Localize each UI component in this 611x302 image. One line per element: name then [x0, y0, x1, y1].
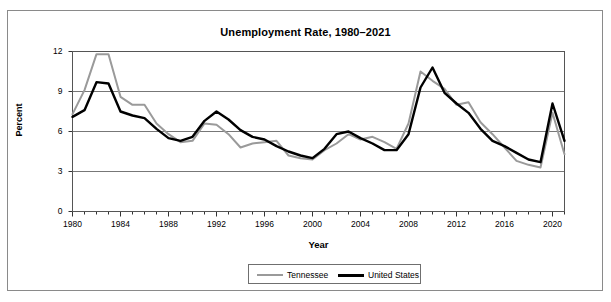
x-tick-label: 1996	[247, 219, 283, 229]
legend-item-tennessee: Tennessee	[257, 269, 328, 281]
x-tick-label: 1988	[151, 219, 187, 229]
plot-area	[0, 0, 611, 302]
legend-label-tennessee: Tennessee	[287, 270, 328, 280]
y-tick-label: 3	[37, 166, 63, 176]
x-tick-label: 2004	[343, 219, 379, 229]
x-tick-label: 1984	[103, 219, 139, 229]
y-tick-label: 0	[37, 206, 63, 216]
x-tick-label: 2008	[391, 219, 427, 229]
x-tick-label: 1980	[55, 219, 91, 229]
legend-label-united-states: United States	[368, 270, 419, 280]
x-tick-label: 2012	[439, 219, 475, 229]
x-axis-label: Year	[72, 239, 565, 250]
y-tick-label: 9	[37, 86, 63, 96]
legend: Tennessee United States	[248, 264, 421, 284]
y-tick-label: 12	[37, 46, 63, 56]
y-tick-label: 6	[37, 126, 63, 136]
legend-swatch-united-states	[338, 274, 364, 277]
series-line-tennessee	[73, 54, 565, 167]
y-axis-tick-marks	[69, 52, 73, 212]
legend-swatch-tennessee	[257, 274, 283, 276]
x-tick-label: 2020	[535, 219, 571, 229]
x-tick-label: 1992	[199, 219, 235, 229]
legend-item-united-states: United States	[338, 269, 419, 281]
series-line-united-states	[73, 68, 565, 163]
x-tick-label: 2000	[295, 219, 331, 229]
x-tick-label: 2016	[487, 219, 523, 229]
chart-figure: Unemployment Rate, 1980–2021 Percent 036…	[0, 0, 611, 302]
